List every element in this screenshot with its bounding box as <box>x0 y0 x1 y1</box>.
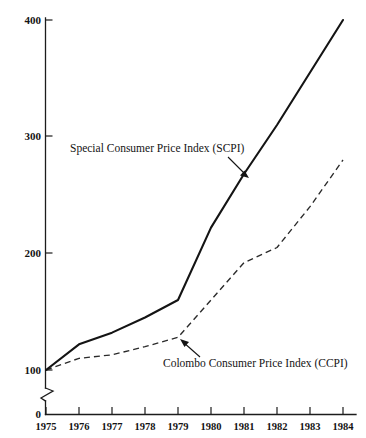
series-line-scpi <box>46 20 343 370</box>
x-axis-label-1980: 1980 <box>201 421 222 432</box>
chart-canvas: 400 300 200 100 0 1975 1976 1977 1978 19… <box>0 0 366 438</box>
line-chart: 400 300 200 100 0 1975 1976 1977 1978 19… <box>0 0 366 438</box>
x-axis-label-1978: 1978 <box>135 421 156 432</box>
y-axis-label-300: 300 <box>25 130 42 142</box>
x-axis-label-1976: 1976 <box>69 421 90 432</box>
x-axis-label-1983: 1983 <box>300 421 321 432</box>
y-axis-break-zigzag <box>41 388 53 401</box>
x-axis-label-1979: 1979 <box>168 421 189 432</box>
y-axis-label-0: 0 <box>36 408 42 420</box>
y-axis-label-400: 400 <box>25 14 42 26</box>
x-axis-label-1975: 1975 <box>36 421 57 432</box>
x-axis-label-1977: 1977 <box>102 421 123 432</box>
x-axis-label-1982: 1982 <box>267 421 288 432</box>
annotation-label-scpi: Special Consumer Price Index (SCPI) <box>70 142 245 155</box>
y-axis-label-100: 100 <box>25 364 42 376</box>
x-axis-label-1984: 1984 <box>333 421 355 432</box>
x-axis-label-1981: 1981 <box>234 421 255 432</box>
annotation-label-ccpi: Colombo Consumer Price Index (CCPI) <box>163 357 348 370</box>
y-axis-label-200: 200 <box>25 247 42 259</box>
